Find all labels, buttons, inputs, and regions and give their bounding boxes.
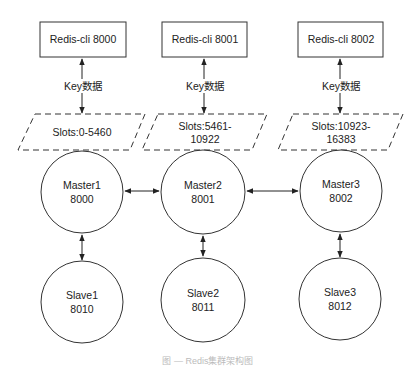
cluster-diagram: Redis-cli 8000 Key数据 Slots:0-5460 Master… <box>0 0 417 366</box>
client-label: Redis-cli 8000 <box>50 33 117 45</box>
client-label: Redis-cli 8002 <box>308 33 375 45</box>
slave-port: 8010 <box>70 303 94 315</box>
column-3: Redis-cli 8002 Key数据 Slots:10923- 16383 … <box>278 22 403 340</box>
master-node <box>300 150 382 232</box>
slave-node <box>299 258 381 340</box>
slave-port: 8011 <box>192 301 215 313</box>
slots-label-line2: 10922 <box>190 133 219 145</box>
slave-node <box>41 261 123 343</box>
master-name: Master1 <box>63 179 101 191</box>
master-name: Master3 <box>322 178 360 190</box>
column-2: Redis-cli 8001 Key数据 Slots:5461- 10922 M… <box>142 22 267 342</box>
edge-label: Key数据 <box>322 80 361 92</box>
slots-label-line2: 16383 <box>326 133 355 145</box>
slave-name: Slave2 <box>187 287 219 299</box>
slave-port: 8012 <box>328 300 352 312</box>
master-node <box>41 151 123 233</box>
slave-node <box>161 258 245 342</box>
master-port: 8000 <box>70 193 94 205</box>
master-node <box>161 150 245 234</box>
master-port: 8001 <box>191 193 215 205</box>
slots-label: Slots:0-5460 <box>53 126 112 138</box>
figure-caption: 图 — Redis集群架构图 <box>162 355 253 366</box>
edge-label: Key数据 <box>64 80 103 92</box>
slave-name: Slave3 <box>324 286 356 298</box>
master-port: 8002 <box>329 192 353 204</box>
slave-name: Slave1 <box>66 289 98 301</box>
slots-label-line1: Slots:10923- <box>312 120 371 132</box>
client-label: Redis-cli 8001 <box>172 33 239 45</box>
edge-label: Key数据 <box>186 80 225 92</box>
master-name: Master2 <box>184 179 222 191</box>
column-1: Redis-cli 8000 Key数据 Slots:0-5460 Master… <box>18 22 145 343</box>
slots-label-line1: Slots:5461- <box>178 120 232 132</box>
